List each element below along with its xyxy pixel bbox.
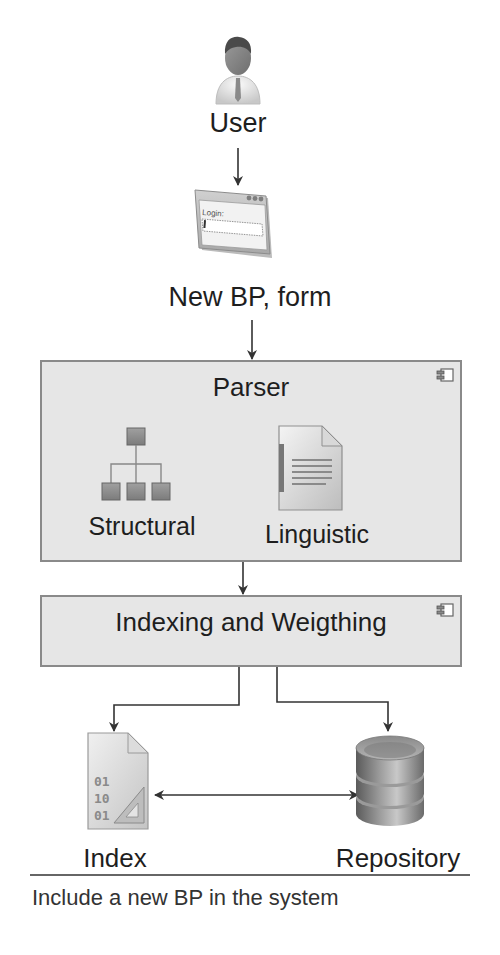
form-label: New BP, form <box>100 282 400 313</box>
linguistic-subcomponent[interactable]: Linguistic <box>242 372 392 562</box>
edge-indexing-to-index <box>114 667 239 731</box>
svg-text:01: 01 <box>94 808 110 823</box>
login-form-icon: Login: <box>192 188 276 262</box>
indexing-weighting-component[interactable]: Indexing and Weigthing <box>40 595 462 667</box>
index-node[interactable]: 01 10 01 <box>86 731 150 831</box>
indexing-title: Indexing and Weigthing <box>42 607 460 638</box>
login-form-node[interactable]: Login: <box>192 188 276 262</box>
document-icon <box>276 424 346 514</box>
user-icon <box>212 6 264 106</box>
svg-text:Login:: Login: <box>202 208 224 218</box>
repository-label: Repository <box>318 843 478 874</box>
database-icon <box>352 732 428 832</box>
index-label: Index <box>60 843 170 874</box>
structural-subcomponent[interactable]: Structural <box>72 372 212 562</box>
parser-component[interactable]: Parser Structural <box>40 360 462 562</box>
linguistic-label: Linguistic <box>242 520 392 549</box>
repository-node[interactable] <box>352 732 428 832</box>
svg-text:01: 01 <box>94 774 110 789</box>
user-label: User <box>188 108 288 139</box>
binary-file-icon: 01 10 01 <box>86 731 150 831</box>
structural-label: Structural <box>62 512 222 541</box>
svg-text:10: 10 <box>94 791 110 806</box>
hierarchy-icon <box>100 424 176 504</box>
diagram-caption: Include a new BP in the system <box>32 885 339 911</box>
edge-indexing-to-repository <box>277 667 388 731</box>
user-node[interactable] <box>212 6 264 106</box>
